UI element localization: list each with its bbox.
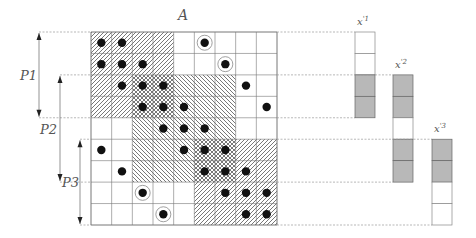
nonzero-dot xyxy=(97,39,105,47)
nonzero-dot xyxy=(118,60,126,68)
vector-cell-gray xyxy=(393,139,413,160)
nonzero-dot xyxy=(180,124,188,132)
nonzero-dot xyxy=(138,81,146,89)
nonzero-dot xyxy=(200,146,208,154)
circled-dot xyxy=(159,210,167,218)
vector-cell-white xyxy=(355,32,375,53)
circled-dot xyxy=(138,189,146,197)
nonzero-dot xyxy=(262,189,270,197)
nonzero-dot xyxy=(242,189,250,197)
nonzero-dot xyxy=(118,39,126,47)
nonzero-dot xyxy=(118,81,126,89)
circled-dot xyxy=(221,60,229,68)
vector-label: x'3 xyxy=(434,122,447,134)
vector-cell-white xyxy=(432,204,452,225)
nonzero-dot xyxy=(242,210,250,218)
nonzero-dot xyxy=(262,103,270,111)
nonzero-dot xyxy=(262,210,270,218)
vector-cell-gray xyxy=(355,96,375,117)
arrowhead-up-icon xyxy=(58,76,63,83)
partition-label: P1 xyxy=(19,68,37,83)
nonzero-dot xyxy=(221,167,229,175)
vector-cell-gray xyxy=(432,139,452,160)
nonzero-dot xyxy=(97,60,105,68)
arrowhead-up-icon xyxy=(78,140,83,147)
nonzero-dot xyxy=(200,124,208,132)
vector-cell-white xyxy=(393,118,413,139)
arrowhead-down-icon xyxy=(37,110,42,117)
partition-label: P3 xyxy=(61,175,79,190)
circled-dot xyxy=(200,39,208,47)
nonzero-dot xyxy=(159,103,167,111)
nonzero-dot xyxy=(180,146,188,154)
vector-label: x'2 xyxy=(395,58,408,70)
vector-label: x'1 xyxy=(357,15,369,27)
nonzero-dot xyxy=(138,60,146,68)
vector-cell-gray xyxy=(432,161,452,182)
partition-arrows: P1P2P3 xyxy=(19,32,91,225)
nonzero-dot xyxy=(159,124,167,132)
partition-label: P2 xyxy=(39,122,57,137)
arrowhead-up-icon xyxy=(37,33,42,40)
vector-cell-gray xyxy=(393,75,413,96)
nonzero-dot xyxy=(242,81,250,89)
nonzero-dot xyxy=(221,189,229,197)
block-partition-diagram: A P1P2P3 x'1x'2x'3 xyxy=(0,0,476,238)
nonzero-dot xyxy=(242,167,250,175)
vector-cell-gray xyxy=(355,75,375,96)
nonzero-dot xyxy=(159,81,167,89)
nonzero-dot xyxy=(138,103,146,111)
matrix-label: A xyxy=(176,7,188,23)
matrix-grid xyxy=(91,32,277,225)
nonzero-dot xyxy=(221,146,229,154)
nonzero-dot xyxy=(200,167,208,175)
vector-cell-gray xyxy=(393,161,413,182)
vector-cell-white xyxy=(432,182,452,203)
vector-cell-white xyxy=(355,53,375,74)
nonzero-dot xyxy=(180,103,188,111)
vector-cell-gray xyxy=(393,96,413,117)
nonzero-dot xyxy=(97,146,105,154)
nonzero-dot xyxy=(118,167,126,175)
vector-blocks: x'1x'2x'3 xyxy=(277,15,452,225)
arrowhead-down-icon xyxy=(78,217,83,224)
